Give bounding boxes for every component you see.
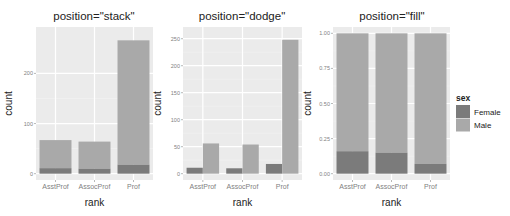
x-tick-label: AsstProf	[42, 183, 69, 190]
legend: sex Female Male	[456, 93, 501, 132]
figure: 0100200AsstProfAssocProfProfposition="st…	[0, 0, 510, 216]
y-axis-label: count	[3, 91, 14, 116]
y-tick-label: 0.25	[319, 136, 330, 142]
y-tick-label: 0	[177, 171, 180, 177]
y-tick-label: 250	[171, 36, 180, 42]
bar-female	[266, 164, 282, 174]
y-tick-label: 0.50	[319, 101, 330, 107]
bar-male	[376, 33, 408, 152]
y-tick-label: 50	[174, 144, 180, 150]
x-tick-label: AsstProf	[190, 183, 217, 190]
y-tick-label: 100	[24, 121, 33, 127]
x-axis-label: rank	[382, 197, 402, 208]
bar-female	[118, 165, 150, 174]
legend-label-male: Male	[474, 121, 492, 130]
y-tick-label: 0.00	[319, 171, 330, 177]
x-tick-label: AssocProf	[79, 183, 111, 190]
bar-female	[415, 164, 447, 174]
legend-label-female: Female	[474, 108, 501, 117]
bar-male	[118, 40, 150, 164]
bar-female	[187, 168, 203, 174]
bar-male	[337, 33, 369, 151]
legend-key-female	[456, 105, 470, 118]
bar-male	[243, 145, 259, 174]
panel-title: position="dodge"	[199, 10, 286, 22]
y-axis-label: count	[152, 91, 163, 116]
panel-dodge: 050100150200250AsstProfAssocProfProfposi…	[152, 10, 302, 208]
panel-title: position="fill"	[359, 10, 424, 22]
bar-male	[282, 40, 298, 174]
bar-male	[40, 140, 72, 168]
y-tick-label: 100	[171, 117, 180, 123]
y-tick-label: 0.75	[319, 65, 330, 71]
x-axis-label: rank	[233, 197, 253, 208]
bar-female	[376, 153, 408, 174]
panel-fill: 0.000.250.500.751.00AsstProfAssocProfPro…	[302, 10, 450, 208]
panel-title: position="stack"	[53, 10, 134, 22]
x-tick-label: Prof	[276, 183, 289, 190]
y-tick-label: 150	[171, 90, 180, 96]
legend-title: sex	[456, 93, 470, 103]
bar-female	[40, 168, 72, 174]
legend-key-male	[456, 119, 470, 132]
x-tick-label: AssocProf	[376, 183, 408, 190]
x-tick-label: AssocProf	[227, 183, 259, 190]
faceted-bar-chart: 0100200AsstProfAssocProfProfposition="st…	[0, 0, 510, 216]
y-tick-label: 1.00	[319, 30, 330, 36]
y-tick-label: 200	[171, 63, 180, 69]
bar-female	[79, 169, 111, 174]
y-tick-label: 0	[30, 171, 33, 177]
bar-female	[337, 151, 369, 173]
x-tick-label: AsstProf	[339, 183, 366, 190]
bar-male	[79, 142, 111, 169]
y-axis-label: count	[302, 91, 313, 116]
x-axis-label: rank	[85, 197, 105, 208]
y-tick-label: 200	[24, 70, 33, 76]
bar-male	[203, 143, 219, 173]
bar-female	[226, 168, 242, 173]
x-tick-label: Prof	[424, 183, 437, 190]
panel-stack: 0100200AsstProfAssocProfProfposition="st…	[3, 10, 153, 208]
bar-male	[415, 33, 447, 164]
x-tick-label: Prof	[127, 183, 140, 190]
